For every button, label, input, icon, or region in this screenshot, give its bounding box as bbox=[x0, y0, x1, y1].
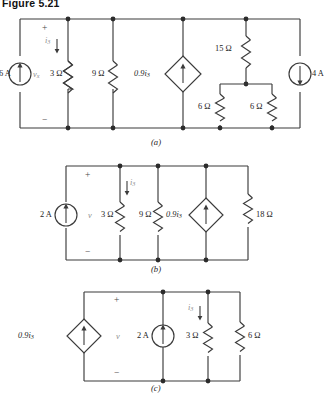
voltage-label-vx: vx bbox=[33, 71, 39, 79]
circuit-panel-c: + − 0.9i3 v 2 A i3 3 Ω 6 Ω (c) bbox=[0, 278, 322, 393]
resistor-label-6ohm-left-a: 6 Ω bbox=[198, 103, 211, 111]
resistor-label-6ohm-right-a: 6 Ω bbox=[250, 103, 263, 111]
source-label-2a-b: 2 A bbox=[40, 211, 52, 219]
source-label-6a: 6 A bbox=[0, 70, 11, 78]
source-label-4a: 4 A bbox=[312, 70, 324, 78]
circuit-panel-a: + − 6 A vx i3 3 Ω 9 Ω 0.9i3 15 Ω 6 Ω 6 Ω… bbox=[0, 6, 322, 146]
resistor-label-15ohm-a: 15 Ω bbox=[215, 45, 232, 53]
panel-caption-a: (a) bbox=[151, 137, 161, 147]
resistor-label-3ohm-c: 3 Ω bbox=[186, 332, 199, 340]
polarity-minus-a: − bbox=[42, 116, 47, 126]
circuit-schematic-c bbox=[0, 278, 322, 393]
dependent-source-label-a: 0.9i3 bbox=[134, 70, 150, 78]
voltage-label-v-b: v bbox=[88, 212, 92, 220]
current-label-i3-c: i3 bbox=[188, 304, 193, 312]
resistor-label-9ohm-b: 9 Ω bbox=[139, 211, 152, 219]
panel-caption-c: (c) bbox=[151, 383, 161, 393]
voltage-label-v-c: v bbox=[116, 333, 120, 341]
polarity-plus-c: + bbox=[114, 296, 119, 306]
current-label-i3-a: i3 bbox=[45, 37, 50, 45]
polarity-plus-b: + bbox=[85, 171, 90, 181]
panel-caption-b: (b) bbox=[151, 264, 161, 274]
resistor-label-18ohm-b: 18 Ω bbox=[256, 211, 273, 219]
circuit-schematic-a bbox=[0, 6, 322, 146]
dependent-source-label-c: 0.9i3 bbox=[18, 332, 34, 340]
source-label-2a-c: 2 A bbox=[137, 332, 149, 340]
polarity-minus-c: − bbox=[114, 369, 119, 379]
resistor-label-9ohm-a: 9 Ω bbox=[92, 70, 105, 78]
circuit-panel-b: + − 2 A v i3 3 Ω 9 Ω 0.9i3 18 Ω (b) bbox=[0, 152, 322, 274]
dependent-source-label-b: 0.9i3 bbox=[166, 211, 182, 219]
resistor-label-3ohm-a: 3 Ω bbox=[50, 70, 63, 78]
current-label-i3-b: i3 bbox=[130, 179, 135, 187]
resistor-label-6ohm-c: 6 Ω bbox=[248, 332, 261, 340]
resistor-label-3ohm-b: 3 Ω bbox=[101, 211, 114, 219]
polarity-plus-a: + bbox=[42, 24, 47, 34]
polarity-minus-b: − bbox=[85, 248, 90, 258]
